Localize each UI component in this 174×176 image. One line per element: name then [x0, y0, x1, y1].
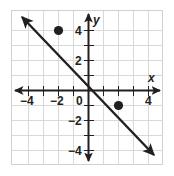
- x-tick-label-neg4: −4: [20, 95, 34, 107]
- x-tick-label-neg2: −2: [50, 95, 64, 107]
- y-axis-label: y: [93, 14, 100, 26]
- graph-canvas: [0, 0, 174, 176]
- y-tick-label-neg4: −4: [68, 145, 82, 157]
- origin-label: 0: [76, 95, 83, 107]
- y-tick-label-4: 4: [75, 25, 82, 37]
- y-tick-label-neg2: −2: [68, 115, 82, 127]
- data-point-1: [54, 26, 63, 35]
- coordinate-plane-figure: −4 −2 4 0 4 2 −2 −4 x y: [0, 0, 174, 176]
- x-tick-label-4: 4: [145, 95, 152, 107]
- y-tick-label-2: 2: [75, 55, 82, 67]
- x-axis-label: x: [148, 72, 155, 84]
- data-point-2: [114, 101, 123, 110]
